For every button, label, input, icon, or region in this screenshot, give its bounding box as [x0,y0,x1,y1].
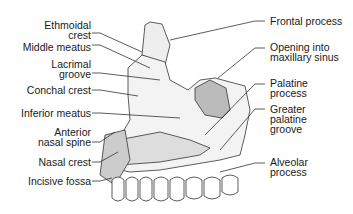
label-lacrimal-groove: Lacrimal groove [51,59,91,79]
label-anterior-nasal-spine: Anterior nasal spine [38,127,91,147]
label-nasal-crest: Nasal crest [38,157,91,167]
label-ethmoidal-crest: Ethmoidal crest [44,20,91,40]
label-greater-palatine-groove: Greater palatine groove [270,104,307,134]
label-line: process [270,167,308,177]
label-line: Frontal process [270,16,342,26]
label-line: Middle meatus [23,42,91,52]
label-inferior-meatus: Inferior meatus [21,108,91,118]
label-opening-maxillary-sinus: Opening into maxillary sinus [270,42,339,62]
label-line: Inferior meatus [21,108,91,118]
label-palatine-process: Palatine process [270,78,308,98]
label-line: groove [51,69,91,79]
label-line: groove [270,124,307,134]
label-line: nasal spine [38,137,91,147]
label-middle-meatus: Middle meatus [23,42,91,52]
label-conchal-crest: Conchal crest [27,85,91,95]
label-frontal-process: Frontal process [270,16,342,26]
label-alveolar-process: Alveolar process [270,157,308,177]
label-line: Nasal crest [38,157,91,167]
label-incisive-fossa: Incisive fossa [28,176,91,186]
label-line: Incisive fossa [28,176,91,186]
label-line: Conchal crest [27,85,91,95]
label-line: crest [44,30,91,40]
label-line: process [270,88,308,98]
label-line: maxillary sinus [270,52,339,62]
